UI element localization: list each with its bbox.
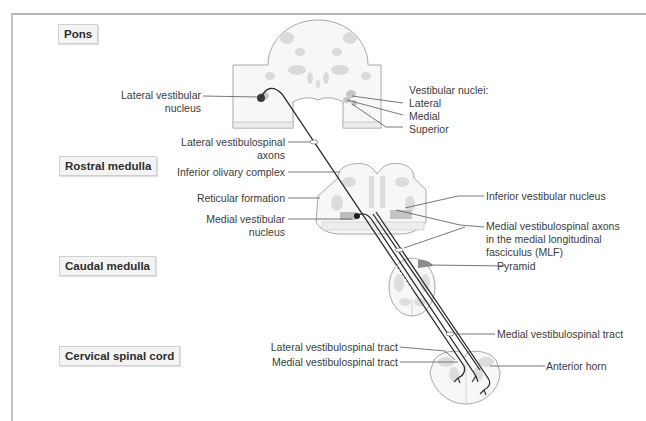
label-anterior-horn: Anterior horn [546,360,607,373]
label-vn-lateral: Lateral [409,97,488,110]
label-inferior-olivary-complex: Inferior olivary complex [177,166,285,179]
pons-section [233,20,381,128]
label-pyramid: Pyramid [497,260,536,273]
label-lateral-vestibulospinal-tract: Lateral vestibulospinal tract [271,341,398,354]
label-mlf: Medial vestibulospinal axons in the medi… [486,220,620,259]
rostral-medulla-section [316,164,426,234]
level-label-rostral-medulla: Rostral medulla [59,156,157,176]
label-medial-vestibular-nucleus: Medial vestibular nucleus [206,213,285,239]
label-lateral-vestibulospinal-axons: Lateral vestibulospinal axons [181,136,285,162]
label-medial-vestibulospinal-tract-left: Medial vestibulospinal tract [272,356,398,369]
level-label-cervical-spinal-cord: Cervical spinal cord [59,346,180,366]
level-label-caudal-medulla: Caudal medulla [59,256,156,276]
label-inferior-vestibular-nucleus: Inferior vestibular nucleus [486,190,606,203]
label-reticular-formation: Reticular formation [197,192,285,205]
pyramid-region [418,260,433,268]
label-vn-medial: Medial [409,110,488,123]
label-lateral-vestibular-nucleus: Lateral vestibular nucleus [121,89,201,115]
label-medial-vestibulospinal-tract-right: Medial vestibulospinal tract [497,328,623,341]
label-vn-superior: Superior [409,123,488,136]
label-vestibular-nuclei: Vestibular nuclei: Lateral Medial Superi… [409,84,488,136]
level-label-pons: Pons [58,24,98,44]
